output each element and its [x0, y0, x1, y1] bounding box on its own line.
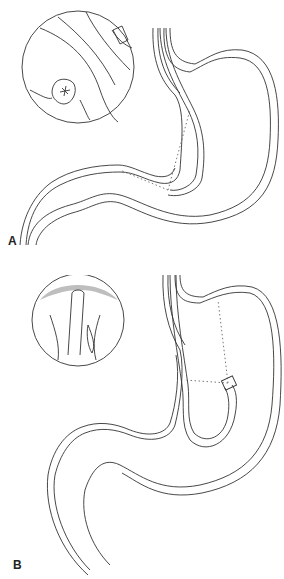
inset-view-cardia: [32, 275, 124, 366]
inset-view-pylorus: [22, 11, 134, 123]
stomach-wall-b: [47, 286, 281, 575]
panel-b: B: [0, 275, 284, 579]
panel-b-drawing: [0, 275, 284, 579]
esophagus-b: [163, 275, 203, 350]
panel-label-a: A: [8, 234, 17, 248]
panel-label-b: B: [13, 558, 22, 572]
panel-a-drawing: [0, 0, 284, 250]
stomach-wall: [20, 50, 278, 245]
endoscope-b: [170, 275, 237, 447]
panel-a: A: [0, 0, 284, 250]
